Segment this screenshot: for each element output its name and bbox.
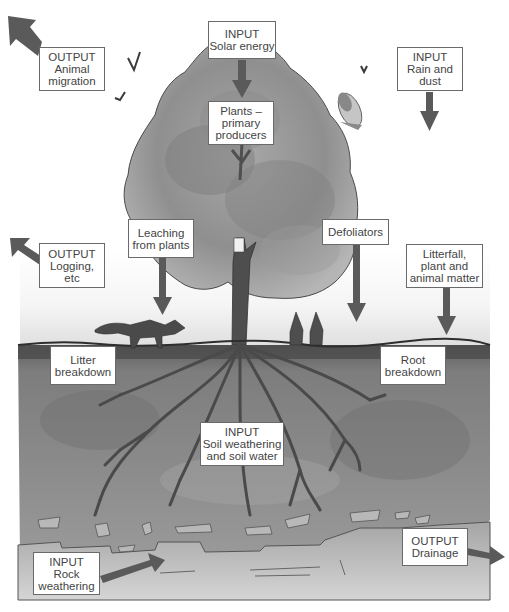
- label-litter-breakdown: Litter breakdown: [50, 346, 116, 385]
- label-type: INPUT: [225, 426, 260, 438]
- label-text: Soil weathering: [203, 438, 282, 450]
- label-type: INPUT: [49, 556, 84, 568]
- label-input-rain-and-dust: INPUT Rain and dust: [397, 47, 463, 91]
- label-text: primary: [222, 117, 260, 129]
- label-text: Rock: [53, 568, 79, 580]
- label-leaching-from-plants: Leaching from plants: [128, 219, 194, 258]
- label-text: Drainage: [412, 547, 459, 559]
- label-text: Leaching: [138, 227, 185, 239]
- label-text: breakdown: [55, 366, 111, 378]
- label-text: Solar energy: [209, 40, 274, 52]
- label-type: INPUT: [225, 28, 260, 40]
- label-text: Plants –: [220, 105, 262, 117]
- label-text: breakdown: [385, 366, 441, 378]
- label-text: migration: [48, 75, 95, 87]
- label-text: dust: [419, 75, 441, 87]
- label-type: OUTPUT: [411, 535, 458, 547]
- label-output-logging: OUTPUT Logging, etc: [39, 243, 105, 288]
- label-type: OUTPUT: [48, 248, 95, 260]
- label-type: INPUT: [413, 51, 448, 63]
- label-plants-primary-producers: Plants – primary producers: [208, 101, 274, 145]
- label-text: weathering: [38, 580, 94, 592]
- label-text: etc: [64, 272, 79, 284]
- ecosystem-illustration: [0, 0, 509, 612]
- label-litterfall: Litterfall, plant and animal matter: [406, 244, 483, 288]
- label-text: Litterfall,: [423, 248, 466, 260]
- label-text: Animal: [54, 63, 89, 75]
- label-input-soil-weathering: INPUT Soil weathering and soil water: [200, 422, 284, 466]
- arrow-animal-migration: [8, 16, 42, 56]
- label-text: Defoliators: [328, 226, 383, 238]
- label-text: Litter: [70, 354, 96, 366]
- label-text: from plants: [133, 239, 190, 251]
- label-text: Root: [401, 354, 425, 366]
- arrow-rain-dust: [420, 92, 439, 131]
- label-output-drainage: OUTPUT Drainage: [402, 528, 468, 566]
- label-input-rock-weathering: INPUT Rock weathering: [33, 552, 100, 595]
- label-text: Logging,: [50, 260, 94, 272]
- label-type: OUTPUT: [48, 51, 95, 63]
- label-text: plant and: [421, 260, 468, 272]
- label-input-solar-energy: INPUT Solar energy: [208, 21, 276, 59]
- label-defoliators: Defoliators: [322, 219, 389, 245]
- label-text: producers: [215, 129, 266, 141]
- label-root-breakdown: Root breakdown: [380, 346, 446, 385]
- label-text: Rain and: [407, 63, 453, 75]
- label-output-animal-migration: OUTPUT Animal migration: [39, 47, 105, 91]
- label-text: animal matter: [410, 272, 480, 284]
- label-text: and soil water: [207, 450, 278, 462]
